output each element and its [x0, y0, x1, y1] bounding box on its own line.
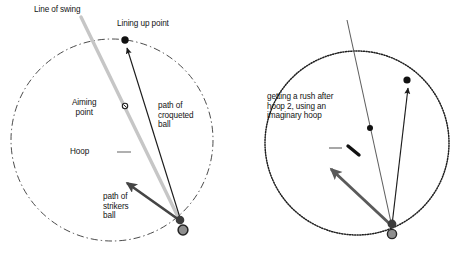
right-strikers-ball	[388, 220, 397, 229]
diagram-canvas	[0, 0, 458, 255]
right-aiming-point-marker	[367, 125, 373, 131]
left-lining-up-point-marker	[121, 36, 128, 43]
left-strikers-ball	[176, 216, 185, 225]
left-aiming-point-marker	[122, 103, 127, 108]
label-line-of-swing: Line of swing	[34, 5, 81, 15]
croquet-diagram-figure: Line of swing Lining up point Aiming poi…	[0, 0, 458, 255]
label-rush-after-hoop-2-caption: getting a rush after hoop 2, using an im…	[267, 92, 333, 121]
right-target-point-marker	[403, 76, 410, 83]
right-diagram-group	[265, 20, 449, 239]
right-imaginary-hoop-dash-icon	[348, 146, 359, 155]
left-path-of-croqueted-ball-arrow	[127, 48, 181, 221]
label-hoop: Hoop	[70, 147, 89, 157]
right-path-of-croqueted-ball-arrow	[392, 88, 408, 225]
label-lining-up-point: Lining up point	[117, 19, 169, 29]
label-aiming-point: Aiming point	[72, 98, 96, 117]
label-path-of-strikers-ball: path of strikers ball	[103, 192, 129, 221]
right-line-of-swing	[347, 20, 392, 227]
right-swing-circle	[265, 51, 449, 235]
left-croqueted-ball	[178, 225, 188, 235]
right-croqueted-ball	[387, 229, 396, 238]
left-path-of-strikers-ball-arrow	[127, 183, 182, 222]
right-path-of-strikers-ball-arrow	[331, 169, 392, 226]
label-path-of-croqueted-ball: path of croqueted ball	[158, 101, 194, 130]
